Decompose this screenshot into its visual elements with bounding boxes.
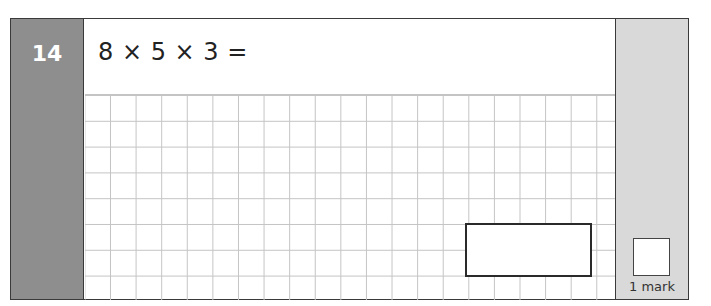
mark-box[interactable] bbox=[633, 238, 670, 276]
question-frame: 14 8 × 5 × 3 = 1 mark bbox=[10, 18, 689, 300]
mark-label: 1 mark bbox=[616, 279, 688, 294]
mark-panel: 1 mark bbox=[615, 19, 688, 299]
question-expression: 8 × 5 × 3 = bbox=[98, 38, 248, 66]
question-number-panel: 14 bbox=[11, 19, 84, 299]
question-number: 14 bbox=[11, 41, 83, 66]
answer-box[interactable] bbox=[465, 223, 592, 277]
